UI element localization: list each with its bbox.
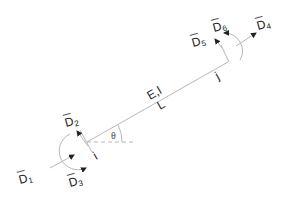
dof-label-d5: D 5: [190, 32, 208, 51]
dof-index: 6: [221, 24, 228, 34]
dof-label-d1: D 1: [17, 169, 35, 188]
d2-arrow: [77, 131, 88, 146]
dof-index: 2: [73, 119, 80, 129]
dof-index: 5: [200, 39, 207, 49]
angle-label: θ: [111, 130, 116, 141]
d6-rotation-arc: [224, 33, 242, 60]
dof-index: 1: [27, 176, 34, 186]
dof-label-d2: D 2: [63, 112, 81, 131]
dof-label-d3: D 3: [67, 172, 85, 191]
label-length: L: [155, 97, 168, 113]
beam-element-diagram: E,I L θ i j D 1 D 2 D 3 D 4 D 5 D 6: [0, 0, 291, 201]
label-node-i: i: [91, 149, 100, 162]
d5-arrow: [215, 39, 222, 48]
d4-arrow: [236, 33, 256, 46]
node-i-label: i: [91, 149, 100, 162]
dof-index: 4: [265, 22, 272, 32]
dof-index: 3: [77, 179, 84, 189]
d3-rotation-arc: [59, 134, 86, 170]
angle-arc: [118, 125, 122, 142]
node-j-label: j: [212, 69, 222, 83]
node-i-tick: [80, 130, 92, 152]
label-node-j: j: [212, 69, 222, 83]
length-label: L: [155, 97, 168, 113]
dof-label-d4: D 4: [255, 15, 273, 34]
